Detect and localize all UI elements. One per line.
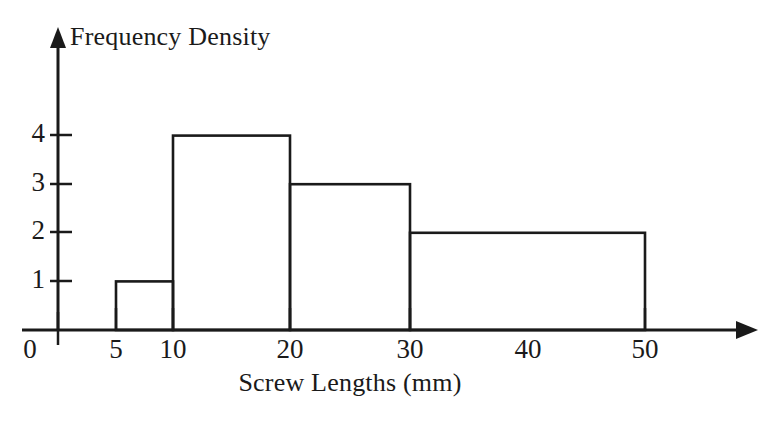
y-axis-arrowhead-icon — [50, 27, 66, 48]
bar-20-30 — [290, 184, 410, 330]
y-tick-label-4: 4 — [15, 118, 45, 149]
y-axis-title: Frequency Density — [70, 22, 271, 52]
bar-30-50 — [410, 233, 645, 330]
y-tick-label-1: 1 — [15, 264, 45, 295]
bar-10-20 — [173, 136, 290, 330]
x-tick-label-5: 5 — [92, 334, 140, 365]
x-tick-label-40: 40 — [504, 334, 552, 365]
x-tick-label-0: 0 — [6, 334, 54, 365]
x-axis-tick-marks — [58, 308, 645, 345]
y-tick-label-2: 2 — [15, 215, 45, 246]
x-axis-title: Screw Lengths (mm) — [0, 368, 700, 398]
bar-5-10 — [116, 281, 173, 330]
y-tick-label-3: 3 — [15, 167, 45, 198]
x-tick-label-30: 30 — [386, 334, 434, 365]
y-axis — [50, 27, 66, 330]
x-axis-arrowhead-icon — [736, 321, 758, 339]
histogram-bars — [116, 136, 645, 330]
x-tick-label-10: 10 — [149, 334, 197, 365]
y-axis-tick-marks — [50, 135, 72, 281]
x-tick-label-50: 50 — [621, 334, 669, 365]
histogram-chart: Frequency Density Screw Lengths (mm) 1 2… — [0, 0, 775, 425]
x-tick-label-20: 20 — [266, 334, 314, 365]
